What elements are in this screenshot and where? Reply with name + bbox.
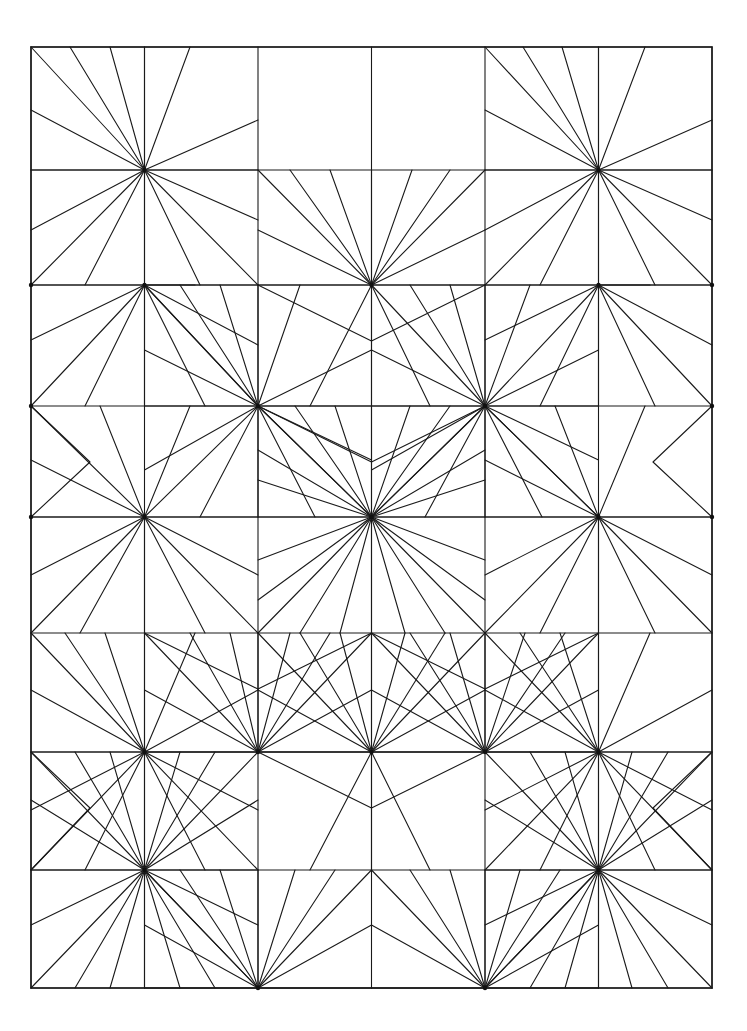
starburst-row8-col4 xyxy=(483,986,487,990)
starburst-row4-col2 xyxy=(256,404,260,408)
starburst-row5-col5 xyxy=(596,515,600,519)
starburst-row5-left-edge xyxy=(29,515,33,519)
central-starburst xyxy=(369,515,373,519)
starburst-row3-col5 xyxy=(596,283,600,287)
starburst-row6-col1 xyxy=(142,750,146,754)
starburst-row5-right-edge xyxy=(710,515,714,519)
starburst-row5-col1 xyxy=(142,515,146,519)
starburst-row6-col5 xyxy=(596,750,600,754)
starburst-row2-col3 xyxy=(369,283,373,287)
starburst-row6-col3 xyxy=(369,750,373,754)
starburst-row3-col1 xyxy=(142,283,146,287)
starburst-row4-right-edge xyxy=(710,404,714,408)
starburst-row7-col1 xyxy=(142,868,146,872)
pattern-canvas xyxy=(0,0,747,1031)
starburst-row1-col1 xyxy=(142,168,146,172)
starburst-row6-col4 xyxy=(483,750,487,754)
starburst-row2-left-edge xyxy=(29,283,33,287)
starburst-row8-col2 xyxy=(256,986,260,990)
starburst-row4-col4 xyxy=(483,404,487,408)
starburst-row2-right-edge xyxy=(710,283,714,287)
starburst-row6-col2 xyxy=(256,750,260,754)
starburst-row4-left-edge xyxy=(29,404,33,408)
starburst-row1-col5 xyxy=(596,168,600,172)
starburst-row7-col5 xyxy=(596,868,600,872)
